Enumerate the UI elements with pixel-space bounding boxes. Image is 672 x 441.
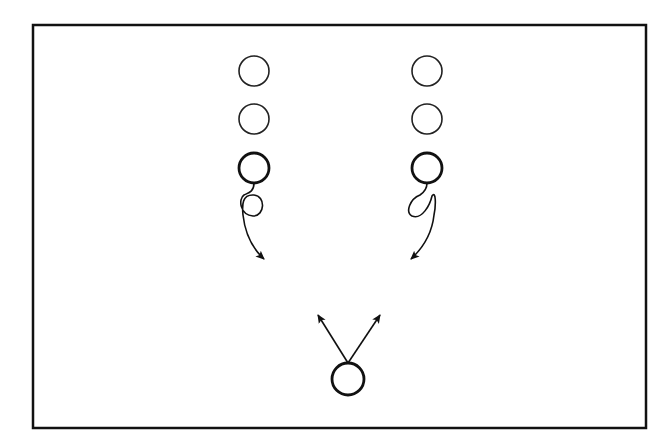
drill-diagram <box>0 0 672 441</box>
field-frame <box>33 25 646 428</box>
